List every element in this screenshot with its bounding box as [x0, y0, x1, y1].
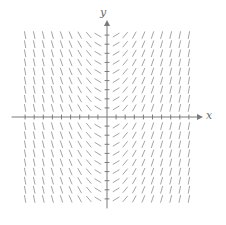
- slope-segment: [87, 32, 91, 37]
- slope-segment: [69, 187, 72, 193]
- slope-segment: [95, 51, 101, 55]
- slope-segment: [161, 186, 163, 193]
- slope-segment: [188, 59, 189, 66]
- slope-segment: [170, 68, 172, 75]
- slope-segment: [133, 159, 136, 165]
- slope-segment: [123, 196, 127, 201]
- slope-segment: [123, 42, 127, 47]
- slope-segment: [78, 105, 81, 111]
- slope-segment: [33, 168, 34, 175]
- slope-segment: [33, 59, 34, 66]
- slope-segment: [42, 132, 44, 139]
- slope-segment: [142, 105, 145, 111]
- slope-segment: [69, 159, 72, 165]
- slope-segment: [188, 95, 189, 102]
- slope-segment: [133, 123, 136, 129]
- slope-segment: [42, 159, 44, 166]
- slope-segment: [60, 186, 62, 193]
- x-axis-label: x: [206, 109, 212, 122]
- slope-segment: [133, 68, 136, 74]
- slope-segment: [24, 195, 25, 202]
- slope-segment: [87, 51, 91, 56]
- slope-segment: [161, 132, 163, 139]
- slope-segment: [42, 68, 44, 75]
- slope-segment: [69, 168, 72, 174]
- slope-segment: [170, 132, 172, 139]
- slope-segment: [78, 32, 81, 38]
- slope-segment: [24, 123, 25, 130]
- slope-segment: [188, 168, 189, 175]
- slope-segment: [87, 123, 91, 128]
- y-axis-label: y: [100, 6, 106, 19]
- slope-segment: [33, 123, 34, 130]
- slope-segment: [42, 95, 44, 102]
- slope-segment: [95, 33, 101, 37]
- slope-segment: [142, 132, 145, 138]
- slope-segment: [142, 168, 145, 174]
- slope-segment: [161, 50, 163, 57]
- slope-segment: [123, 178, 127, 183]
- slope-segment: [33, 141, 34, 148]
- slope-segment: [78, 178, 81, 184]
- slope-segment: [151, 132, 153, 139]
- slope-segment: [42, 123, 44, 130]
- slope-segment: [78, 87, 81, 93]
- slope-segment: [161, 68, 163, 75]
- slope-segment: [179, 141, 180, 148]
- slope-segment: [95, 79, 101, 83]
- slope-segment: [179, 32, 180, 39]
- slope-segment: [113, 179, 119, 183]
- slope-segment: [69, 41, 72, 47]
- slope-segment: [87, 96, 91, 101]
- slope-segment: [170, 41, 172, 48]
- slope-segment: [33, 68, 34, 75]
- slope-segment: [24, 41, 25, 48]
- slope-segment: [87, 178, 91, 183]
- slope-segment: [95, 124, 101, 128]
- slope-segment: [142, 150, 145, 156]
- slope-segment: [170, 59, 172, 66]
- slope-segment: [179, 177, 180, 184]
- slope-segment: [113, 33, 119, 37]
- slope-segment: [87, 169, 91, 174]
- slope-segment: [151, 59, 153, 66]
- axes: [12, 20, 203, 208]
- slope-segment: [151, 105, 153, 112]
- slope-segment: [33, 132, 34, 139]
- slope-segment: [113, 197, 119, 201]
- slope-segment: [95, 197, 101, 201]
- slope-segment: [142, 96, 145, 102]
- slope-segment: [188, 141, 189, 148]
- slope-segment: [95, 88, 101, 92]
- slope-segment: [142, 68, 145, 74]
- slope-segment: [179, 68, 180, 75]
- slope-segment: [33, 104, 34, 111]
- slope-segment: [113, 188, 119, 192]
- slope-segment: [51, 150, 53, 157]
- slope-segment: [142, 159, 145, 165]
- slope-segment: [113, 124, 119, 128]
- slope-segment: [170, 104, 172, 111]
- slope-segment: [69, 196, 72, 202]
- slope-segment: [69, 86, 72, 92]
- slope-segment: [133, 50, 136, 56]
- slope-segment: [142, 187, 145, 193]
- slope-segment: [69, 132, 72, 138]
- slope-segment: [60, 50, 62, 57]
- slope-segment: [95, 133, 101, 137]
- slope-segment: [170, 159, 172, 166]
- slope-segment: [78, 132, 81, 138]
- slope-segment: [133, 187, 136, 193]
- slope-segment: [113, 106, 119, 110]
- slope-segment: [78, 141, 81, 147]
- slope-segment: [161, 141, 163, 148]
- slope-segment: [161, 95, 163, 102]
- slope-segment: [24, 186, 25, 193]
- slope-segment: [151, 86, 153, 93]
- slope-segment: [78, 50, 81, 56]
- slope-segment: [95, 61, 101, 65]
- slope-segment: [33, 177, 34, 184]
- slope-segment: [69, 50, 72, 56]
- slope-segment: [123, 160, 127, 165]
- slope-segment: [161, 59, 163, 66]
